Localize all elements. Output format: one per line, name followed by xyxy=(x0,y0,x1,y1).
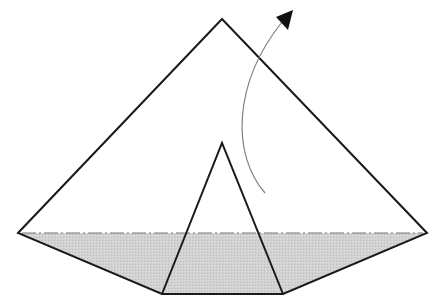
shaded-fold-region xyxy=(18,233,427,294)
origami-diagram xyxy=(0,0,443,308)
fold-arrow-curve xyxy=(242,22,282,193)
